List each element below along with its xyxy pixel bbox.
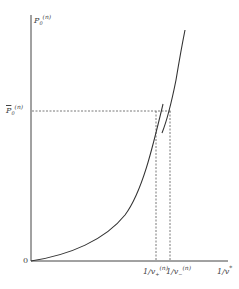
lower-curve: [31, 104, 163, 261]
diagram-canvas: [0, 0, 239, 289]
level-label-sup: (n): [15, 103, 24, 110]
level-label-sub: 0: [11, 110, 14, 116]
x-tick-minus-sub: −: [178, 271, 182, 277]
origin-label: 0: [23, 257, 28, 265]
x-axis-label-base: 1/v: [217, 267, 229, 276]
x-tick-plus-base: 1/v: [143, 267, 155, 276]
y-axis-label: P0(n): [34, 14, 51, 26]
x-tick-plus-sub: +: [155, 271, 159, 277]
upper-curve: [162, 30, 185, 133]
x-tick-minus-sup: (n): [183, 264, 192, 271]
x-tick-minus: 1/v−(n): [166, 265, 191, 277]
y-axis-label-sub: 0: [39, 20, 42, 26]
x-axis-label-sup: *: [229, 264, 232, 271]
x-axis-label: 1/v*: [217, 265, 232, 276]
x-tick-minus-base: 1/v: [166, 267, 178, 276]
y-axis-label-sup: (n): [43, 13, 52, 20]
x-tick-plus: 1/v+(n): [143, 265, 168, 277]
level-label: P0(n): [6, 104, 23, 116]
